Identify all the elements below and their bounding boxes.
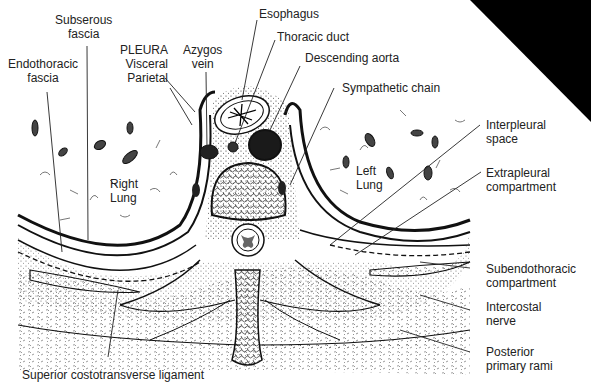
label-text: Visceral (120, 57, 168, 71)
label-esophagus: Esophagus (259, 7, 319, 21)
label-descending-aorta: Descending aorta (305, 51, 399, 65)
label-text: Posterior (486, 345, 553, 359)
corner-mask (470, 0, 591, 122)
label-thoracic-duct: Thoracic duct (277, 30, 349, 44)
label-interpleural-space: Interpleural space (486, 118, 546, 146)
label-text: Interpleural (486, 118, 546, 132)
label-intercostal-nerve: Intercostal nerve (486, 300, 541, 328)
label-left-lung: Left Lung (356, 164, 383, 192)
label-text: space (486, 132, 546, 146)
label-superior-costotransverse-ligament: Superior costotransverse ligament (22, 368, 204, 382)
label-text: vein (183, 57, 222, 71)
label-text: Subserous (55, 13, 112, 27)
label-text: Azygos (183, 43, 222, 57)
label-right-lung: Right Lung (110, 177, 138, 205)
label-text: compartment (486, 180, 556, 194)
label-text: Lung (110, 191, 138, 205)
label-endothoracic-fascia: Endothoracic fascia (8, 57, 78, 85)
label-text: Right (110, 177, 138, 191)
label-pleura: PLEURA Visceral Parietal (120, 43, 168, 85)
label-text: Endothoracic (8, 57, 78, 71)
label-posterior-primary-rami: Posterior primary rami (486, 345, 553, 373)
anatomy-diagram: Subserous fascia Endothoracic fascia PLE… (0, 0, 591, 386)
label-text: primary rami (486, 359, 553, 373)
label-text: PLEURA (120, 43, 168, 57)
label-sympathetic-chain: Sympathetic chain (342, 81, 440, 95)
label-text: fascia (55, 27, 112, 41)
label-text: Intercostal (486, 300, 541, 314)
label-text: Parietal (120, 71, 168, 85)
label-text: fascia (8, 71, 78, 85)
label-azygos-vein: Azygos vein (183, 43, 222, 71)
label-subserous-fascia: Subserous fascia (55, 13, 112, 41)
label-text: compartment (486, 276, 576, 290)
label-text: Extrapleural (486, 166, 556, 180)
label-text: Left (356, 164, 383, 178)
label-extrapleural-compartment: Extrapleural compartment (486, 166, 556, 194)
label-text: Lung (356, 178, 383, 192)
label-text: Subendothoracic (486, 262, 576, 276)
label-subendothoracic-compartment: Subendothoracic compartment (486, 262, 576, 290)
label-text: nerve (486, 314, 541, 328)
